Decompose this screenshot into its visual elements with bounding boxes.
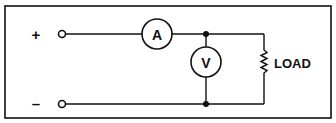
circuit-diagram: + A V LOAD – [0,0,336,123]
voltmeter-label: V [201,55,211,71]
negative-terminal [59,101,66,108]
load-label: LOAD [274,56,311,71]
positive-terminal [59,31,66,38]
negative-label: – [32,95,40,112]
load-resistor [261,34,267,104]
positive-label: + [32,26,41,43]
ammeter-label: A [152,27,162,43]
